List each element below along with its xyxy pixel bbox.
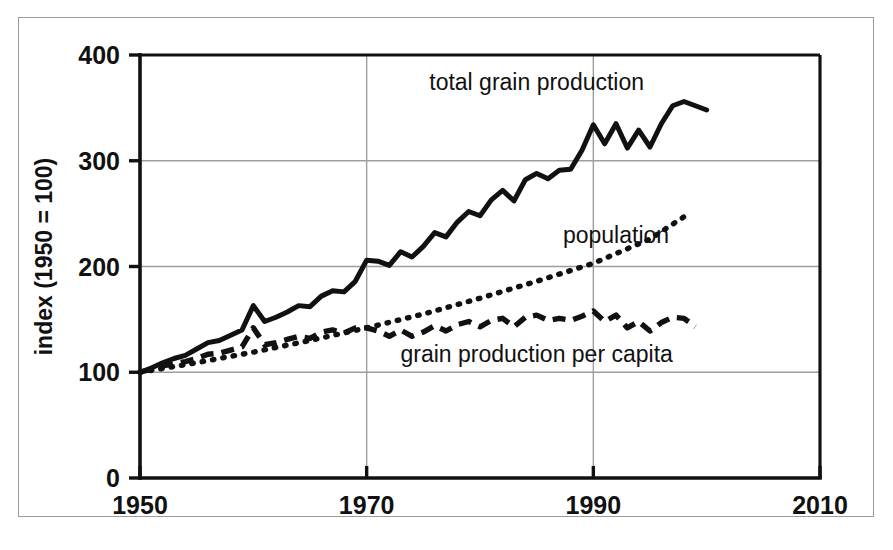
x-tick-label-2010: 2010: [792, 491, 848, 519]
y-tick-label-200: 200: [78, 253, 120, 281]
x-tick-label-1950: 1950: [112, 491, 168, 519]
y-tick-label-0: 0: [106, 464, 120, 492]
x-tick-label-1970: 1970: [339, 491, 395, 519]
y-tick-label-100: 100: [78, 358, 120, 386]
series-annotations: total grain productionpopulationgrain pr…: [400, 69, 673, 367]
x-tick-label-1990: 1990: [566, 491, 622, 519]
chart-figure: 01002003004001950197019902010 total grai…: [0, 0, 893, 550]
y-tick-label-400: 400: [78, 41, 120, 69]
tick-labels: 01002003004001950197019902010: [78, 41, 848, 519]
gridlines: [140, 55, 820, 478]
line-chart: 01002003004001950197019902010 total grai…: [0, 0, 893, 550]
annotation-population: population: [563, 222, 669, 248]
y-tick-label-300: 300: [78, 147, 120, 175]
annotation-grain-production-per-capita: grain production per capita: [400, 341, 673, 367]
annotation-total-grain-production: total grain production: [429, 69, 644, 95]
y-axis-title: index (1950 = 100): [31, 158, 57, 356]
